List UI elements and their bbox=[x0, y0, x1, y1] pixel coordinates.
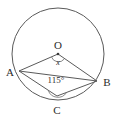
geometry-figure: O A B C x 115° bbox=[0, 0, 117, 122]
vertex-label-a: A bbox=[6, 66, 14, 78]
segment-oa bbox=[19, 54, 58, 71]
vertex-label-b: B bbox=[103, 76, 110, 88]
center-point-dot bbox=[57, 53, 60, 56]
center-label-o: O bbox=[54, 39, 62, 51]
central-angle-label: x bbox=[55, 58, 60, 67]
vertex-label-c: C bbox=[53, 104, 60, 116]
inscribed-angle-label: 115° bbox=[48, 75, 65, 85]
